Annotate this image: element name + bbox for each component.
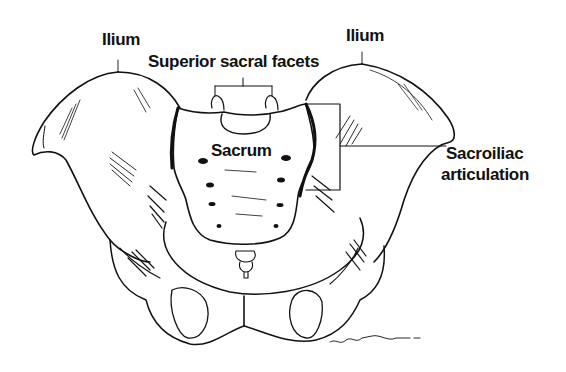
label-articulation: articulation (441, 165, 529, 184)
label-superior-sacral-facets: Superior sacral facets (148, 52, 319, 71)
facet-bracket (215, 78, 272, 96)
pelvic-brim (164, 218, 364, 294)
artist-signature (330, 336, 420, 343)
label-ilium-left: Ilium (102, 30, 140, 49)
sacrum-outline (178, 104, 306, 115)
coccyx (236, 251, 256, 278)
label-ilium-right: Ilium (346, 26, 384, 45)
label-sacroiliac: Sacroiliac (446, 144, 523, 163)
label-sacrum: Sacrum (211, 141, 272, 160)
pelvis-diagram: Ilium Ilium Superior sacral facets Sacru… (0, 0, 566, 372)
right-obturator (290, 290, 323, 338)
left-obturator (171, 288, 208, 338)
